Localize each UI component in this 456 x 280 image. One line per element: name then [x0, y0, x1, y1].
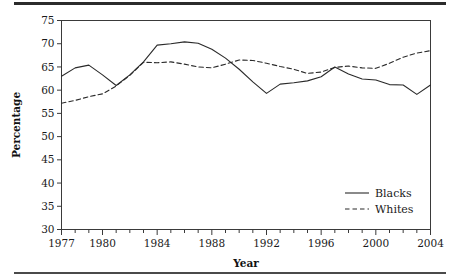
- x-tick-label-2000: 2000: [362, 237, 389, 249]
- x-tick-label-1996: 1996: [308, 237, 335, 249]
- legend-label-blacks: Blacks: [375, 187, 412, 200]
- x-tick-label-1988: 1988: [198, 237, 225, 249]
- y-tick-label-60: 60: [41, 84, 54, 96]
- x-tick-label-1977: 1977: [48, 237, 75, 249]
- y-tick-label-65: 65: [41, 61, 54, 73]
- x-tick-label-1992: 1992: [253, 237, 280, 249]
- legend-label-whites: Whites: [375, 203, 414, 216]
- y-tick-label-45: 45: [41, 153, 54, 165]
- series-line-whites: [62, 51, 431, 103]
- y-tick-label-70: 70: [41, 37, 54, 49]
- x-tick-label-1980: 1980: [89, 237, 116, 249]
- line-chart: 3035404550556065707519771980198419881992…: [0, 0, 456, 280]
- x-axis-title: Year: [232, 257, 259, 269]
- y-tick-label-30: 30: [41, 223, 54, 235]
- y-tick-label-55: 55: [41, 107, 54, 119]
- figure-container: 3035404550556065707519771980198419881992…: [0, 0, 456, 280]
- y-tick-label-35: 35: [41, 200, 54, 212]
- y-tick-label-75: 75: [41, 14, 54, 26]
- x-tick-label-2004: 2004: [417, 237, 444, 249]
- y-tick-label-50: 50: [41, 130, 54, 142]
- y-tick-label-40: 40: [41, 177, 54, 189]
- y-axis-title: Percentage: [10, 92, 22, 159]
- x-tick-label-1984: 1984: [144, 237, 171, 249]
